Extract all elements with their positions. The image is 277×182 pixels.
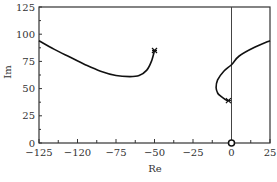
x-axis-title: Re [148, 163, 162, 174]
y-axis-title: Im [2, 65, 13, 79]
x-tick-label: −75 [105, 147, 126, 158]
y-tick-label: 125 [16, 2, 35, 13]
x-tick-label: 25 [264, 147, 277, 158]
locus-branch-2 [216, 41, 270, 101]
x-tick-label: −50 [144, 147, 165, 158]
y-tick-label: 50 [22, 83, 35, 94]
x-tick-label: −125 [25, 147, 52, 158]
x-tick-label: −25 [182, 147, 203, 158]
locus-branch-1 [39, 41, 155, 77]
star-marker [226, 98, 231, 103]
plot-border [39, 7, 270, 143]
y-tick-label: 75 [22, 56, 35, 67]
plot-frame [39, 7, 270, 143]
x-tick-label: 0 [228, 147, 234, 158]
root-locus-chart: 0255075100125 −125−120−75−50−25025 Re Im [0, 0, 277, 182]
y-tick-label: 100 [16, 29, 35, 40]
y-axis: 0255075100125 [16, 2, 42, 149]
x-tick-label: −120 [64, 147, 91, 158]
origin-circle-marker [229, 140, 235, 146]
x-axis: −125−120−75−50−25025 [25, 139, 276, 158]
y-tick-label: 25 [22, 110, 35, 121]
